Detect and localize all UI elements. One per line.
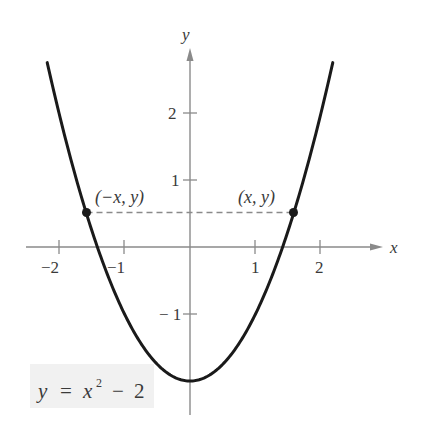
point-left-dot bbox=[82, 208, 91, 217]
chart-canvas: y x −2 −1 1 2 2 1 − 1 (−x, y) (x, y) y =… bbox=[0, 0, 427, 447]
point-left-label: (−x, y) bbox=[95, 187, 144, 208]
y-tick-label-2: 2 bbox=[168, 104, 177, 123]
equation-variable: x bbox=[82, 379, 93, 403]
point-right-label: (x, y) bbox=[238, 187, 275, 208]
x-axis-arrow-icon bbox=[370, 244, 383, 251]
y-axis-label: y bbox=[180, 25, 190, 44]
equation-lhs: y bbox=[36, 379, 48, 403]
x-tick-label-minus-1: −1 bbox=[107, 258, 125, 277]
x-tick-label-minus-2: −2 bbox=[41, 258, 59, 277]
point-right-dot bbox=[289, 208, 298, 217]
y-tick-label-1: 1 bbox=[171, 171, 180, 190]
x-axis-label: x bbox=[389, 238, 398, 257]
equation-exponent: 2 bbox=[96, 376, 102, 390]
equation-equals: = bbox=[60, 379, 72, 403]
x-tick-label-1: 1 bbox=[251, 258, 260, 277]
equation-minus: − bbox=[112, 379, 124, 403]
y-axis-arrow-icon bbox=[187, 48, 194, 61]
y-tick-label-minus-1: − 1 bbox=[159, 305, 181, 324]
parabola-figure: y x −2 −1 1 2 2 1 − 1 (−x, y) (x, y) y =… bbox=[0, 0, 427, 447]
equation-constant: 2 bbox=[134, 379, 145, 403]
x-tick-label-2: 2 bbox=[315, 258, 324, 277]
